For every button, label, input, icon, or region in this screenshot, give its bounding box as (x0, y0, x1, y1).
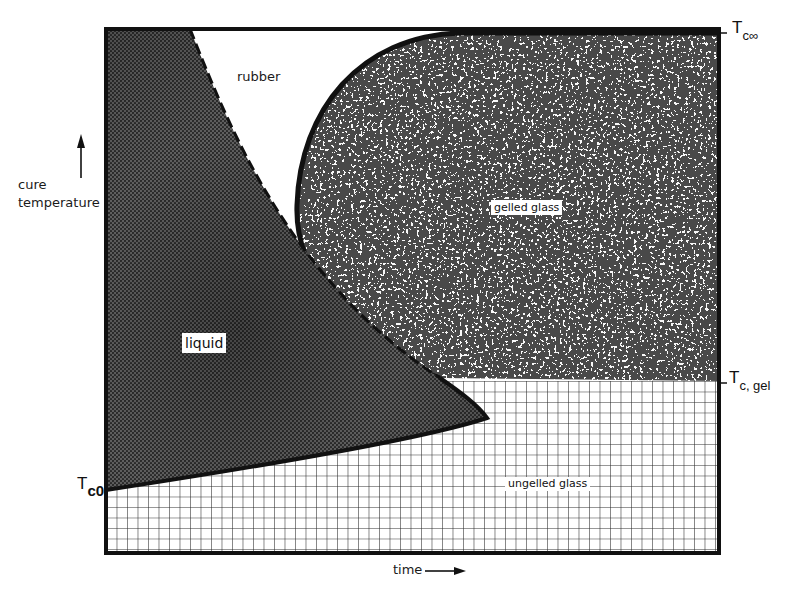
liquid-label: liquid (182, 333, 226, 353)
up-arrow-icon (77, 134, 85, 178)
x-axis-label: time (393, 562, 422, 577)
y-axis-label-line1: cure (18, 177, 46, 192)
y-axis-label-line2: temperature (18, 195, 100, 210)
ungelled-glass-label: ungelled glass (505, 477, 590, 491)
tc0-label: Tc0 (77, 474, 104, 494)
right-arrow-icon (425, 567, 466, 575)
gelled-glass-label: gelled glass (491, 200, 562, 215)
tc-gel-label: Tc, gel (729, 368, 770, 388)
ttt-diagram (0, 0, 792, 589)
tc-infinity-label: Tc∞ (732, 18, 758, 38)
rubber-label: rubber (237, 69, 280, 84)
